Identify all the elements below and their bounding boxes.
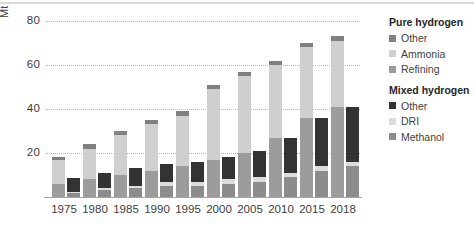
- bar-segment-other: [346, 107, 359, 162]
- bar-segment-other: [114, 131, 127, 135]
- legend-label-pure-other: Other: [401, 33, 427, 44]
- bar-mixed-hydrogen-2000: [222, 157, 235, 197]
- bars-layer: [46, 21, 360, 197]
- legend-item-pure-refining[interactable]: Refining: [389, 64, 474, 75]
- bar-segment-methanol: [253, 182, 266, 197]
- bar-segment-dri: [346, 162, 359, 166]
- bar-segment-other: [67, 178, 80, 191]
- bar-segment-dri: [222, 179, 235, 183]
- x-axis-line: [44, 197, 362, 198]
- bar-pure-hydrogen-1985: [114, 131, 127, 197]
- bar-mixed-hydrogen-1990: [160, 164, 173, 197]
- bar-segment-other: [331, 36, 344, 40]
- legend-swatch-pure-other: [389, 35, 396, 42]
- bar-segment-methanol: [284, 177, 297, 197]
- bar-segment-other: [238, 72, 251, 76]
- legend-swatch-pure-ammonia: [389, 50, 396, 57]
- bar-segment-refining: [238, 153, 251, 197]
- legend-label-pure-ammonia: Ammonia: [401, 49, 445, 60]
- bar-segment-other: [269, 61, 282, 65]
- legend-item-pure-other[interactable]: Other: [389, 33, 474, 44]
- bar-segment-refining: [269, 138, 282, 197]
- top-divider: [0, 2, 474, 4]
- legend-swatch-mixed-other: [389, 102, 396, 109]
- bar-segment-ammonia: [331, 41, 344, 107]
- bar-segment-ammonia: [114, 135, 127, 175]
- bar-pure-hydrogen-1990: [145, 120, 158, 197]
- bar-segment-other: [83, 144, 96, 148]
- legend-label-mixed-other: Other: [401, 101, 427, 112]
- bar-segment-refining: [114, 175, 127, 197]
- legend-item-mixed-dri[interactable]: DRI: [389, 116, 474, 127]
- bar-segment-dri: [253, 177, 266, 181]
- y-tick-label-60: 60: [6, 58, 40, 70]
- bar-pure-hydrogen-1995: [176, 111, 189, 197]
- bar-segment-other: [160, 164, 173, 182]
- x-tick-label-2018: 2018: [323, 203, 363, 215]
- bar-mixed-hydrogen-1980: [98, 173, 111, 197]
- bar-segment-methanol: [129, 188, 142, 197]
- bar-segment-dri: [315, 166, 328, 170]
- legend-item-pure-ammonia[interactable]: Ammonia: [389, 49, 474, 60]
- bar-pure-hydrogen-2000: [207, 85, 220, 197]
- bar-pure-hydrogen-1980: [83, 144, 96, 197]
- bar-segment-ammonia: [145, 124, 158, 170]
- bar-segment-refining: [145, 171, 158, 197]
- bar-segment-other: [207, 85, 220, 89]
- bar-segment-other: [52, 157, 65, 159]
- legend-item-mixed-other[interactable]: Other: [389, 101, 474, 112]
- bar-mixed-hydrogen-2015: [315, 118, 328, 197]
- legend-heading-mixed-hydrogen: Mixed hydrogen: [389, 84, 474, 96]
- bar-mixed-hydrogen-1985: [129, 168, 142, 197]
- bar-mixed-hydrogen-2005: [253, 151, 266, 197]
- bar-segment-methanol: [98, 190, 111, 197]
- bar-segment-refining: [176, 166, 189, 197]
- bar-segment-other: [176, 111, 189, 115]
- bar-mixed-hydrogen-1995: [191, 162, 204, 197]
- bar-pure-hydrogen-2005: [238, 72, 251, 197]
- bar-segment-dri: [129, 186, 142, 188]
- plot-area: [46, 21, 360, 197]
- bar-segment-other: [98, 173, 111, 188]
- legend-heading-pure-hydrogen: Pure hydrogen: [389, 16, 474, 28]
- bar-segment-ammonia: [300, 47, 313, 117]
- bar-pure-hydrogen-1975: [52, 157, 65, 197]
- chart-legend: Pure hydrogen Other Ammonia Refining Mix…: [389, 16, 474, 147]
- bar-segment-refining: [300, 118, 313, 197]
- bar-segment-methanol: [191, 186, 204, 197]
- bar-segment-other: [129, 168, 142, 186]
- legend-swatch-mixed-dri: [389, 118, 396, 125]
- bar-segment-dri: [67, 192, 80, 193]
- bar-segment-other: [222, 157, 235, 179]
- bar-mixed-hydrogen-2018: [346, 107, 359, 197]
- bar-segment-other: [145, 120, 158, 124]
- bar-segment-methanol: [346, 166, 359, 197]
- bar-segment-refining: [52, 184, 65, 197]
- y-tick-label-20: 20: [6, 146, 40, 158]
- y-tick-label-40: 40: [6, 102, 40, 114]
- legend-label-mixed-dri: DRI: [401, 116, 419, 127]
- bar-segment-other: [284, 138, 297, 173]
- legend-label-pure-refining: Refining: [401, 64, 440, 75]
- bar-segment-ammonia: [207, 89, 220, 159]
- bar-segment-refining: [83, 179, 96, 197]
- bar-segment-other: [315, 118, 328, 166]
- bar-segment-methanol: [315, 171, 328, 197]
- legend-label-mixed-methanol: Methanol: [401, 132, 444, 143]
- legend-swatch-pure-refining: [389, 66, 396, 73]
- bar-segment-ammonia: [83, 149, 96, 180]
- bar-pure-hydrogen-2015: [300, 43, 313, 197]
- legend-swatch-mixed-methanol: [389, 133, 396, 140]
- bar-segment-ammonia: [176, 116, 189, 167]
- bar-segment-other: [191, 162, 204, 182]
- y-tick-label-80: 80: [6, 14, 40, 26]
- bar-segment-dri: [98, 188, 111, 190]
- bar-pure-hydrogen-2010: [269, 61, 282, 197]
- bar-mixed-hydrogen-2010: [284, 138, 297, 197]
- bar-segment-methanol: [222, 184, 235, 197]
- bar-segment-dri: [191, 182, 204, 186]
- legend-item-mixed-methanol[interactable]: Methanol: [389, 132, 474, 143]
- bar-segment-dri: [284, 173, 297, 177]
- bar-segment-refining: [331, 107, 344, 197]
- bar-mixed-hydrogen-1975: [67, 178, 80, 197]
